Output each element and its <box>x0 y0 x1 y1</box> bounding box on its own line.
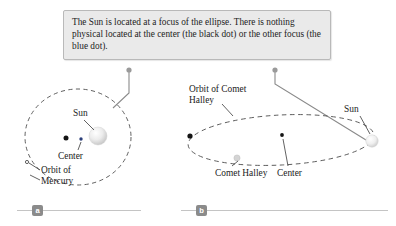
panel-a-orbit-leader-anchor <box>25 160 28 163</box>
panel-a-sun-leader <box>84 120 94 130</box>
panel-b-center-dot <box>280 133 284 137</box>
caption-marker-b: b <box>196 205 207 216</box>
panel-b-sun <box>366 135 378 147</box>
panel-a-orbit-leader2 <box>30 175 40 180</box>
panel-b-sun-label: Sun <box>344 104 359 115</box>
panel-b-sun-leader <box>360 116 370 134</box>
panel-a-sun-label: Sun <box>73 108 88 119</box>
panel-a-sun <box>89 127 107 145</box>
callout-pointer-left <box>113 67 132 108</box>
panel-b-orbit-label: Orbit of Comet Halley <box>189 84 249 105</box>
panel-b-center-label: Center <box>277 168 302 179</box>
panel-a-other-focus-dot <box>79 137 82 140</box>
halley-orbit-ellipse <box>187 110 375 170</box>
panel-b-comet-dot <box>234 155 240 161</box>
panel-b-orbit-leader <box>222 104 233 116</box>
panel-b-center-leader <box>283 139 288 166</box>
panel-a-orbit-label: Orbit of Mercury <box>41 165 95 186</box>
panel-a-center-dot <box>64 136 69 141</box>
panel-b-comet-label: Comet Halley <box>215 168 267 179</box>
panel-b-other-focus-dot <box>187 133 192 138</box>
callout-box: The Sun is located at a focus of the ell… <box>63 10 331 60</box>
caption-marker-a: a <box>32 205 43 216</box>
panel-a-center-leader <box>78 142 81 150</box>
panel-a-center-label: Center <box>58 151 83 162</box>
orbit-figure: The Sun is located at a focus of the ell… <box>0 0 396 226</box>
callout-text: The Sun is located at a focus of the ell… <box>72 16 323 53</box>
